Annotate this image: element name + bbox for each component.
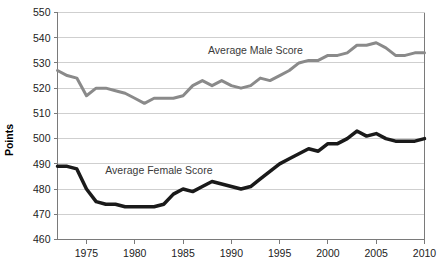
line-chart: 460470480490500510520530540550 197519801… (0, 0, 439, 276)
x-tick-label-1975: 1975 (75, 247, 99, 259)
y-tick-label-540: 540 (33, 32, 51, 44)
x-tick-label-1995: 1995 (268, 247, 292, 259)
x-tick-label-1980: 1980 (123, 247, 147, 259)
chart-canvas: 460470480490500510520530540550 197519801… (0, 0, 439, 276)
x-tick-label-1990: 1990 (220, 247, 244, 259)
y-tick-label-470: 470 (33, 208, 51, 220)
y-tick-label-480: 480 (33, 183, 51, 195)
series-label-average-female-score: Average Female Score (105, 164, 212, 176)
series-label-average-male-score: Average Male Score (208, 44, 303, 56)
y-axis-title: Points (3, 124, 15, 156)
y-tick-label-500: 500 (33, 132, 51, 144)
x-tick-label-2005: 2005 (365, 247, 389, 259)
y-tick-label-550: 550 (33, 6, 51, 18)
y-tick-label-510: 510 (33, 107, 51, 119)
y-tick-label-530: 530 (33, 57, 51, 69)
x-tick-label-2000: 2000 (316, 247, 340, 259)
y-tick-label-520: 520 (33, 82, 51, 94)
y-tick-label-460: 460 (33, 233, 51, 245)
chart-background (0, 0, 439, 276)
x-tick-label-2010: 2010 (413, 247, 437, 259)
x-tick-label-1985: 1985 (171, 247, 195, 259)
y-tick-label-490: 490 (33, 158, 51, 170)
